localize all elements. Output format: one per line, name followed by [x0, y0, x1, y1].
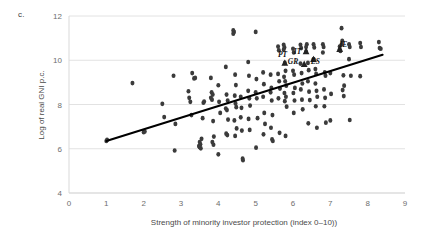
- data-point: [239, 115, 243, 120]
- data-point: [349, 73, 353, 78]
- data-point: [313, 81, 317, 86]
- data-point: [284, 69, 288, 74]
- data-point: [240, 128, 244, 133]
- data-point: [255, 96, 259, 101]
- data-point: [342, 94, 346, 99]
- annotation-label-IT: IT: [293, 47, 302, 56]
- data-point: [269, 72, 273, 77]
- data-point: [359, 45, 363, 50]
- data-point: [263, 122, 267, 127]
- data-point: [186, 89, 190, 94]
- data-point: [348, 118, 352, 123]
- data-point: [233, 72, 237, 77]
- data-point: [173, 122, 177, 127]
- y-axis-ticks: 4681012: [53, 12, 62, 198]
- data-point: [270, 113, 274, 118]
- data-point: [328, 118, 332, 123]
- data-point: [226, 117, 230, 122]
- annotation-label-ES: ES: [310, 57, 320, 66]
- data-point: [269, 125, 273, 130]
- data-point: [248, 103, 252, 108]
- annotation-label-IE: IE: [338, 40, 347, 49]
- data-point: [162, 115, 166, 120]
- x-tick-label-7: 7: [328, 199, 333, 208]
- data-point: [202, 99, 206, 104]
- data-point: [322, 104, 326, 109]
- data-point: [284, 134, 288, 139]
- data-point: [225, 133, 229, 138]
- data-point: [225, 92, 229, 97]
- x-tick-label-0: 0: [67, 199, 72, 208]
- data-point: [248, 128, 252, 133]
- data-point: [231, 31, 235, 36]
- data-point: [247, 117, 251, 122]
- data-point: [379, 46, 383, 51]
- data-point: [130, 81, 134, 86]
- data-point: [262, 132, 266, 137]
- data-point: [313, 67, 317, 72]
- data-point: [321, 50, 325, 55]
- y-tick-label-12: 12: [53, 12, 62, 21]
- data-point: [261, 70, 265, 75]
- data-point: [312, 45, 316, 50]
- data-point: [234, 83, 238, 88]
- marker-triangle-IT: [303, 48, 310, 54]
- data-point: [211, 119, 215, 124]
- data-point: [173, 148, 177, 153]
- data-point: [307, 68, 311, 73]
- data-point: [209, 76, 213, 81]
- data-point: [301, 107, 305, 112]
- data-point: [234, 105, 238, 110]
- data-point: [217, 99, 221, 104]
- trendline-segment: [106, 55, 382, 141]
- data-point: [315, 125, 319, 130]
- data-point: [216, 83, 220, 88]
- x-tick-label-5: 5: [253, 199, 258, 208]
- y-tick-label-8: 8: [58, 101, 63, 110]
- data-point: [262, 82, 266, 87]
- x-tick-label-4: 4: [216, 199, 221, 208]
- data-point: [277, 79, 281, 84]
- annotation-label-GR: GR: [288, 57, 298, 66]
- data-point: [278, 130, 282, 135]
- data-point: [201, 116, 205, 121]
- data-point: [340, 26, 344, 31]
- data-point: [246, 88, 250, 93]
- data-point: [322, 87, 326, 92]
- data-point: [292, 98, 296, 103]
- data-point: [210, 97, 214, 102]
- data-point: [276, 96, 280, 101]
- data-point: [233, 93, 237, 98]
- data-point: [358, 74, 362, 79]
- data-point: [225, 108, 229, 113]
- data-point: [160, 101, 164, 106]
- data-point: [314, 104, 318, 109]
- data-point: [300, 71, 304, 76]
- data-point: [241, 158, 245, 163]
- data-point: [212, 134, 216, 139]
- data-point: [188, 99, 192, 104]
- data-point: [246, 60, 250, 65]
- data-point: [218, 111, 222, 116]
- data-point: [347, 57, 351, 62]
- data-point: [235, 126, 239, 131]
- data-point: [307, 89, 311, 94]
- data-point: [300, 97, 304, 102]
- x-tick-label-6: 6: [291, 199, 296, 208]
- data-point: [261, 94, 265, 99]
- data-point: [216, 152, 220, 157]
- data-point: [271, 139, 275, 144]
- annotation-label-PT: PT: [278, 50, 288, 59]
- data-point: [315, 94, 319, 99]
- data-point: [291, 91, 295, 96]
- data-point: [254, 30, 258, 35]
- data-point: [190, 71, 194, 76]
- data-point: [341, 88, 345, 93]
- scatter-plot: 4681012 0123456789 PTITGRESIE Log of rea…: [0, 0, 425, 238]
- data-point: [358, 41, 362, 46]
- x-tick-label-9: 9: [403, 199, 408, 208]
- data-point: [224, 65, 228, 70]
- y-tick-label-10: 10: [53, 56, 62, 65]
- data-point: [329, 92, 333, 97]
- x-axis-label: Strength of minority investor protection…: [151, 218, 338, 227]
